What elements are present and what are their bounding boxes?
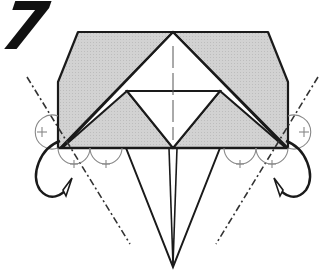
- kite-center-left: [169, 148, 173, 265]
- kite-center-right: [173, 148, 177, 265]
- origami-diagram: [0, 0, 331, 275]
